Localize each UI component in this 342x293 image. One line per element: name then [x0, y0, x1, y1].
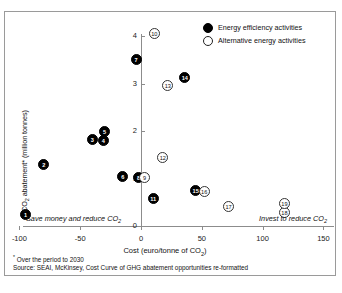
- x-tick-mark: [323, 226, 324, 230]
- x-tick-label: 150: [303, 234, 342, 243]
- footnote-period-text: Over the period to 2030: [15, 256, 84, 263]
- data-point-16: 16: [199, 186, 210, 197]
- y-tick-label: 4: [113, 32, 137, 40]
- footnote-period: * Over the period to 2030: [13, 254, 84, 263]
- data-point-6: 6: [117, 171, 128, 182]
- y-axis-title: CO2 abatement* (million tonnes): [20, 110, 30, 212]
- y-tick-label-text: 2: [117, 127, 137, 135]
- legend-item-label: Energy efficiency activities: [218, 23, 302, 32]
- data-point-14: 14: [179, 72, 190, 83]
- x-tick-label: 50: [182, 234, 222, 243]
- data-point-11: 11: [148, 193, 159, 204]
- x-tick-label: -50: [60, 234, 100, 243]
- data-point-19: 19: [279, 198, 290, 209]
- y-axis-title-main: CO: [20, 201, 29, 212]
- data-point-9: 9: [139, 172, 150, 183]
- data-point-12: 12: [157, 152, 168, 163]
- legend-item-label: Alternative energy activities: [218, 36, 306, 45]
- legend-item-2: Alternative energy activities: [203, 34, 333, 47]
- x-tick-mark: [263, 226, 264, 230]
- annotation-invest-to-reduce: Invest to reduce CO2: [259, 214, 327, 224]
- y-tick-label: 3: [113, 80, 137, 88]
- y-tick-label-text: 4: [117, 32, 137, 40]
- footnote-source: Source: SEAI, McKinsey, Cost Curve of GH…: [13, 264, 248, 271]
- y-tick-mark: [141, 84, 145, 85]
- data-point-17: 17: [223, 201, 234, 212]
- legend-marker-icon: [203, 23, 213, 33]
- data-point-5: 5: [99, 126, 110, 137]
- y-tick-label-text: 3: [117, 80, 137, 88]
- annotation-left-text: Save money and reduce CO: [26, 214, 118, 223]
- x-tick-mark: [202, 226, 203, 230]
- annotation-right-text: Invest to reduce CO: [259, 214, 324, 223]
- x-axis-title-end: ): [204, 246, 207, 255]
- legend-item-1: Energy efficiency activities: [203, 21, 333, 34]
- x-tick-label: 100: [243, 234, 283, 243]
- y-tick-label: 2: [113, 127, 137, 135]
- scatter-plot-area: 01234 -100-50050100150 12345678111415910…: [5, 12, 337, 277]
- legend-marker-icon: [203, 36, 213, 46]
- annotation-save-money: Save money and reduce CO2: [26, 214, 121, 224]
- x-axis-title: Cost (euro/tonne of CO2): [65, 246, 265, 257]
- chart-legend: Energy efficiency activitiesAlternative …: [203, 21, 333, 47]
- data-point-7: 7: [131, 54, 142, 65]
- x-tick-mark: [80, 226, 81, 230]
- y-axis-title-sub: 2: [24, 198, 30, 201]
- x-tick-label: 0: [121, 234, 161, 243]
- x-tick-mark: [141, 226, 142, 230]
- data-point-3: 3: [87, 134, 98, 145]
- x-axis-line: [23, 226, 334, 227]
- y-tick-mark: [141, 131, 145, 132]
- data-point-13: 13: [162, 80, 173, 91]
- data-point-10: 10: [149, 28, 160, 39]
- annotation-left-sub: 2: [118, 218, 121, 224]
- y-tick-mark: [141, 36, 145, 37]
- chart-figure: 01234 -100-50050100150 12345678111415910…: [4, 11, 336, 276]
- x-tick-mark: [19, 226, 20, 230]
- annotation-right-sub: 2: [324, 218, 327, 224]
- x-tick-label: -100: [0, 234, 39, 243]
- x-axis-title-main: Cost (euro/tonne of CO: [123, 246, 201, 255]
- y-axis-title-end: abatement* (million tonnes): [20, 110, 29, 198]
- data-point-2: 2: [38, 159, 49, 170]
